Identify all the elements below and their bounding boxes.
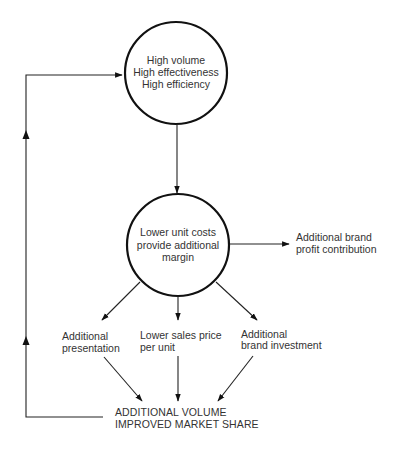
node-brand-profit-line-2: profit contribution: [296, 243, 377, 255]
node-additional-presentation-line-2: presentation: [62, 342, 120, 354]
node-brand-profit: Additional brand profit contribution: [296, 231, 377, 255]
up-arrowhead-upper: [23, 130, 30, 139]
node-high-volume-line-1: High volume: [147, 54, 206, 66]
node-additional-volume-line-2: IMPROVED MARKET SHARE: [115, 418, 259, 430]
node-additional-volume-line-1: ADDITIONAL VOLUME: [115, 406, 227, 418]
node-lower-unit-costs-line-3: margin: [162, 251, 194, 263]
node-brand-profit-line-1: Additional brand: [296, 231, 372, 243]
node-lower-unit-costs-line-1: Lower unit costs: [140, 226, 216, 238]
node-lower-sales-price-line-1: Lower sales price: [140, 329, 222, 341]
node-additional-volume: ADDITIONAL VOLUME IMPROVED MARKET SHARE: [115, 406, 259, 430]
edge-middle-to-presentation: [102, 282, 140, 320]
edge-presentation-to-volume: [104, 357, 142, 401]
node-brand-investment-line-2: brand investment: [241, 339, 322, 351]
node-additional-presentation: Additional presentation: [62, 330, 120, 354]
node-brand-investment: Additional brand investment: [241, 328, 322, 351]
edge-investment-to-volume: [218, 356, 253, 401]
node-high-volume: High volume High effectiveness High effi…: [125, 22, 227, 124]
feedback-loop-edge: [23, 75, 123, 417]
node-high-volume-line-3: High efficiency: [142, 78, 211, 90]
node-lower-unit-costs: Lower unit costs provide additional marg…: [127, 194, 229, 296]
up-arrowhead-lower: [23, 336, 30, 345]
node-lower-sales-price-line-2: per unit: [140, 341, 175, 353]
node-additional-presentation-line-1: Additional: [62, 330, 108, 342]
diagram-canvas: High volume High effectiveness High effi…: [0, 0, 394, 451]
node-lower-sales-price: Lower sales price per unit: [140, 329, 222, 353]
node-high-volume-line-2: High effectiveness: [133, 66, 219, 78]
edge-middle-to-investment: [216, 282, 257, 320]
node-lower-unit-costs-line-2: provide additional: [137, 239, 219, 251]
